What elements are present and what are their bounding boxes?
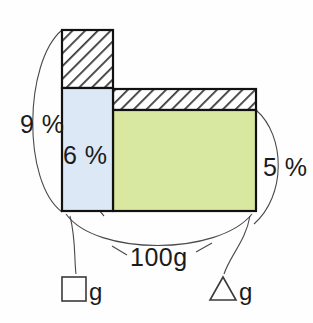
right-bar-solute-segment (113, 89, 256, 110)
arc-total-100g (66, 214, 252, 246)
label-right-mass: g (239, 278, 252, 305)
concentration-diagram: 9 % 6 % 5 % 100g g g (0, 0, 313, 323)
leader-right-mass (224, 216, 250, 274)
label-left-total-percent: 9 % (20, 110, 65, 138)
label-right-percent: 5 % (263, 153, 308, 181)
label-total-mass: 100g (130, 243, 188, 271)
label-left-inner-percent: 6 % (63, 141, 108, 169)
right-bar-solvent-segment (113, 110, 256, 211)
square-symbol-icon (62, 277, 86, 301)
leader-left-mass (70, 216, 76, 274)
leader-100g-right-tick (196, 243, 212, 252)
triangle-symbol-icon (210, 277, 236, 300)
left-bar-solute-segment (62, 30, 113, 88)
leader-100g-left-tick (112, 246, 127, 255)
label-left-mass: g (89, 278, 102, 305)
figure-canvas: 9 % 6 % 5 % 100g g g (0, 0, 313, 323)
